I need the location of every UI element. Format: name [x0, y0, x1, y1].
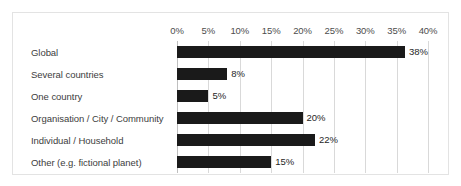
category-row: Global [13, 41, 173, 63]
category-row: Other (e.g. fictional planet) [13, 151, 173, 173]
category-label: Organisation / City / Community [13, 113, 164, 124]
x-axis-tick-label: 5% [202, 25, 216, 36]
category-label: Several countries [13, 69, 104, 80]
x-axis-tick-label: 15% [262, 25, 281, 36]
bar-row[interactable]: 8% [177, 63, 428, 85]
x-axis-tick-label: 40% [419, 25, 438, 36]
bar[interactable] [177, 68, 227, 80]
bar-row[interactable]: 22% [177, 129, 428, 151]
gridline [428, 41, 429, 173]
bar[interactable] [177, 90, 208, 102]
category-label: Individual / Household [13, 135, 123, 146]
category-label: Other (e.g. fictional planet) [13, 157, 142, 168]
x-axis-tick-labels: 0%5%10%15%20%25%30%35%40% [13, 25, 450, 39]
plot-area: 38%8%5%20%22%15% [177, 41, 428, 173]
x-axis-tick-label: 0% [170, 25, 184, 36]
bar-value-label: 38% [409, 47, 428, 57]
y-axis-category-labels: GlobalSeveral countriesOne countryOrgani… [13, 41, 173, 173]
bar-series: 38%8%5%20%22%15% [177, 41, 428, 173]
bar-value-label: 8% [231, 69, 245, 79]
bar-value-label: 5% [212, 91, 226, 101]
bar-row[interactable]: 15% [177, 151, 428, 173]
bar[interactable] [177, 156, 271, 168]
bar-value-label: 22% [319, 135, 338, 145]
bar[interactable] [177, 112, 303, 124]
bar[interactable] [177, 46, 405, 58]
bar-value-label: 15% [275, 157, 294, 167]
category-label: Global [13, 47, 58, 58]
x-axis-tick-label: 20% [293, 25, 312, 36]
category-row: Several countries [13, 63, 173, 85]
category-row: One country [13, 85, 173, 107]
category-label: One country [13, 91, 82, 102]
bar-value-label: 20% [307, 113, 326, 123]
bar-row[interactable]: 5% [177, 85, 428, 107]
x-axis-tick-label: 10% [230, 25, 249, 36]
bar-row[interactable]: 38% [177, 41, 428, 63]
chart-container: 0%5%10%15%20%25%30%35%40% 38%8%5%20%22%1… [12, 12, 449, 175]
bar[interactable] [177, 134, 315, 146]
category-row: Organisation / City / Community [13, 107, 173, 129]
x-axis-tick-label: 35% [387, 25, 406, 36]
x-axis-tick-label: 25% [325, 25, 344, 36]
bar-row[interactable]: 20% [177, 107, 428, 129]
x-axis-tick-label: 30% [356, 25, 375, 36]
category-row: Individual / Household [13, 129, 173, 151]
